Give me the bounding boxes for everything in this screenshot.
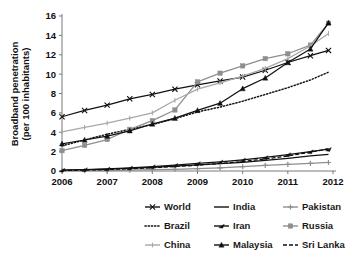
broadband-penetration-line-chart: Broadband penetration(per 100 inhabitant… xyxy=(0,0,356,265)
y-axis-tick-label: 12 xyxy=(45,49,56,60)
y-axis-tick-label: 14 xyxy=(45,30,56,41)
legend-label: Malaysia xyxy=(233,239,273,250)
y-axis-tick-label: 16 xyxy=(45,10,56,21)
data-point-marker xyxy=(240,64,244,68)
y-axis-tick-label: 8 xyxy=(51,88,56,99)
legend-label: World xyxy=(164,201,191,212)
x-axis-tick-label: 2010 xyxy=(232,176,253,187)
legend-label: Sri Lanka xyxy=(302,239,345,250)
y-axis-title-line-1: Broadband penetration xyxy=(9,42,20,147)
legend-label: Russia xyxy=(302,220,334,231)
data-point-marker xyxy=(263,56,267,60)
x-axis-tick-label: 2007 xyxy=(97,176,118,187)
y-axis-title: Broadband penetration(per 100 inhabitant… xyxy=(9,42,31,147)
chart-figure: Broadband penetration(per 100 inhabitant… xyxy=(0,0,356,265)
data-point-marker xyxy=(286,52,290,56)
x-axis-tick-label: 2012 xyxy=(322,176,343,187)
legend-label: Iran xyxy=(233,220,251,231)
x-axis-tick-label: 2009 xyxy=(187,176,208,187)
data-point-marker xyxy=(195,80,199,84)
y-axis-tick-label: 2 xyxy=(51,146,56,157)
chart-legend: WorldIndiaPakistanBrazilIranRussiaChinaM… xyxy=(145,201,345,250)
y-axis-label: Broadband penetration(per 100 inhabitant… xyxy=(9,42,31,147)
legend-label: Brazil xyxy=(164,220,190,231)
legend-label: India xyxy=(233,201,256,212)
data-point-marker xyxy=(60,148,64,152)
y-axis-tick-label: 0 xyxy=(51,165,56,176)
data-point-marker xyxy=(173,108,177,112)
data-point-marker xyxy=(82,143,86,147)
data-point-marker xyxy=(218,71,222,75)
x-axis-tick-label: 2008 xyxy=(142,176,163,187)
y-axis-tick-label: 6 xyxy=(51,107,56,118)
x-axis-tick-label: 2006 xyxy=(51,176,72,187)
data-point-marker xyxy=(288,224,292,228)
y-axis-title-line-2: (per 100 inhabitants) xyxy=(20,48,31,141)
y-axis-tick-label: 4 xyxy=(51,127,57,138)
x-axis-tick-label: 2011 xyxy=(278,176,299,187)
legend-label: Pakistan xyxy=(302,201,341,212)
legend-label: China xyxy=(164,239,191,250)
y-axis-tick-label: 10 xyxy=(45,69,56,80)
